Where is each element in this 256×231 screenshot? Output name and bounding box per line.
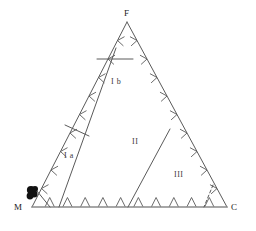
tick-bottom-8 (169, 198, 178, 207)
vertex-label-c: C (231, 203, 237, 212)
ternary-diagram-figure: F M C I a I b II III (0, 0, 256, 231)
internal-line-dashed-right (204, 185, 213, 207)
internal-line-cap-line-Ia (65, 125, 89, 136)
ternary-plot-canvas (0, 0, 256, 231)
region-label-ia: I a (64, 152, 74, 160)
tick-bottom-2 (63, 198, 72, 207)
region-label-ib: I b (111, 78, 121, 86)
internal-line-divider-1 (59, 48, 116, 207)
tick-bottom-9 (187, 198, 196, 207)
vertex-label-m: M (14, 203, 22, 212)
tick-bottom-6 (134, 198, 143, 207)
tick-bottom-3 (81, 198, 90, 207)
region-label-ii: II (132, 138, 138, 146)
vertex-label-f: F (124, 9, 129, 18)
region-label-iii: III (174, 171, 184, 179)
tick-bottom-5 (116, 198, 125, 207)
tick-bottom-4 (98, 198, 107, 207)
data-point-3 (27, 193, 34, 200)
tick-bottom-7 (152, 198, 161, 207)
data-point-4 (32, 186, 38, 192)
internal-line-corner-notch-left (37, 191, 50, 207)
data-point-cluster (27, 186, 38, 200)
